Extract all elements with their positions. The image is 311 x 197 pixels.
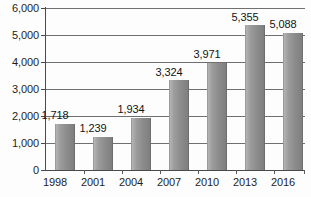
- data-label-2013: 5,355: [225, 12, 265, 23]
- y-axis-label-0: 0: [0, 165, 39, 176]
- x-axis-label-2004: 2004: [111, 176, 151, 188]
- x-axis-label-2001: 2001: [73, 176, 113, 188]
- x-tick-4: [198, 170, 199, 174]
- bar-2016[interactable]: [283, 33, 303, 170]
- y-axis-label-3000: 3,000: [0, 84, 39, 95]
- caption-clipped: [4, 190, 307, 197]
- bar-2004[interactable]: [131, 118, 151, 170]
- plot-area: [46, 8, 305, 170]
- bar-1998[interactable]: [55, 124, 75, 170]
- x-tick-2: [122, 170, 123, 174]
- x-axis-label-1998: 1998: [35, 176, 75, 188]
- y-axis-label-4000: 4,000: [0, 57, 39, 68]
- y-axis-label-2000: 2,000: [0, 111, 39, 122]
- y-axis-label-6000: 6,000: [0, 3, 39, 14]
- y-axis-label-5000: 5,000: [0, 30, 39, 41]
- x-tick-6: [274, 170, 275, 174]
- gridline-5000: [46, 35, 305, 36]
- x-axis-label-2016: 2016: [263, 176, 303, 188]
- data-label-2001: 1,239: [73, 123, 113, 134]
- data-label-2016: 5,088: [263, 19, 303, 30]
- data-label-1998: 1,718: [35, 110, 75, 121]
- data-label-2004: 1,934: [111, 104, 151, 115]
- gridline-6000: [46, 8, 305, 9]
- bar-2001[interactable]: [93, 137, 113, 171]
- x-axis-label-2010: 2010: [187, 176, 227, 188]
- x-axis-label-2013: 2013: [225, 176, 265, 188]
- x-tick-5: [236, 170, 237, 174]
- y-axis-label-1000: 1,000: [0, 138, 39, 149]
- bar-2010[interactable]: [207, 63, 227, 170]
- bar-2007[interactable]: [169, 80, 189, 170]
- bar-chart-figure: 6,000 5,000 4,000 3,000 2,000 1,000 0: [0, 0, 311, 197]
- x-tick-1: [84, 170, 85, 174]
- x-axis-label-2007: 2007: [149, 176, 189, 188]
- gridline-4000: [46, 62, 305, 63]
- data-label-2007: 3,324: [149, 67, 189, 78]
- x-tick-7: [304, 170, 305, 174]
- x-tick-3: [160, 170, 161, 174]
- data-label-2010: 3,971: [187, 49, 227, 60]
- bar-2013[interactable]: [245, 25, 265, 170]
